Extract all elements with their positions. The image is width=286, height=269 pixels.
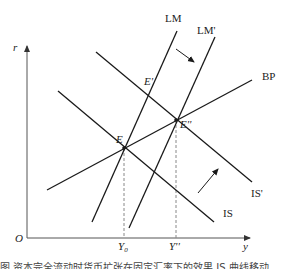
lm-shift-arrow-icon — [176, 49, 194, 62]
lm-prime-label: LM' — [197, 24, 216, 36]
is-prime-curve — [96, 52, 252, 182]
is-curve — [58, 91, 214, 222]
is-shift-arrow-icon — [198, 169, 218, 193]
axes — [27, 46, 250, 238]
origin-label: O — [15, 232, 23, 244]
point-e-dot — [122, 146, 126, 150]
y-double-prime-tick-label: Y'' — [169, 240, 180, 252]
point-e-double-prime-label: E'' — [179, 118, 192, 130]
figure-caption: 图 资本完全流动时货币扩张在固定汇率下的效果 IS 曲线移动 — [0, 259, 286, 269]
bp-label: BP — [262, 70, 275, 82]
point-e-prime-label: E' — [143, 75, 154, 87]
y-axis-label: r — [13, 41, 18, 53]
point-e-label: E — [115, 133, 123, 145]
is-prime-label: IS' — [251, 187, 263, 199]
y0-tick-label: Y0 — [118, 240, 128, 254]
is-label: IS — [223, 207, 233, 219]
lm-prime-curve — [129, 37, 215, 228]
lm-label: LM — [165, 12, 182, 24]
x-axis-label: y — [242, 240, 248, 252]
point-e-double-prime-dot — [174, 118, 178, 122]
